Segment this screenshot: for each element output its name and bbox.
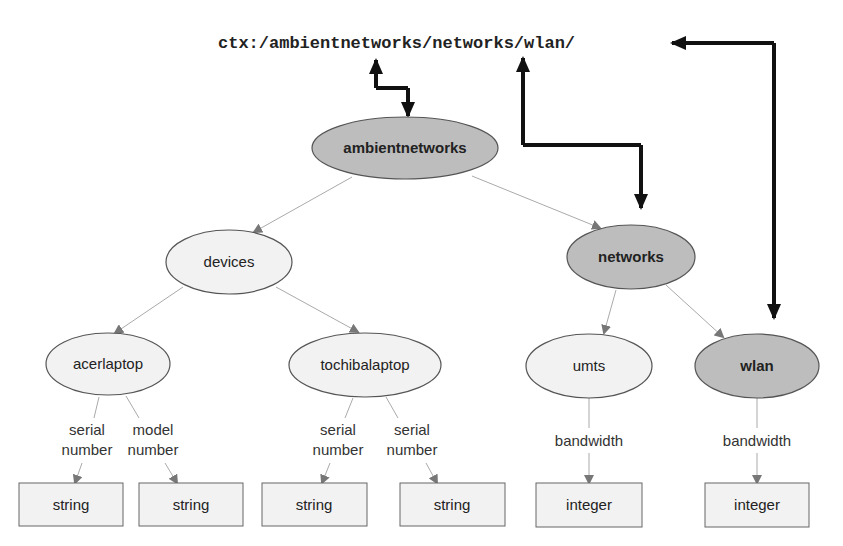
edge-label-tochiba-serial2: serial number: [387, 421, 438, 458]
edge-label-line: number: [313, 441, 364, 458]
edge-label-line: number: [128, 441, 179, 458]
edge-devices-acerlaptop: [115, 287, 183, 333]
edge-label-tochiba-serial1: serial number: [313, 421, 364, 458]
edge-acer-model-bottom: [165, 463, 177, 483]
type-box-wlan-bandwidth[interactable]: integer: [705, 483, 809, 527]
node-networks[interactable]: networks: [567, 225, 695, 289]
type-box-acer-model[interactable]: string: [139, 483, 243, 526]
edge-devices-tochibalaptop: [276, 287, 358, 332]
type-label: string: [173, 496, 210, 513]
edge-networks-wlan: [666, 285, 723, 337]
edge-ambientnetworks-networks: [472, 176, 600, 228]
edge-label-line: number: [62, 441, 113, 458]
context-arrow-wlan: [672, 43, 774, 318]
edge-tochiba-serial1-bottom: [322, 463, 330, 483]
edge-acer-model-top: [126, 396, 139, 418]
node-umts[interactable]: umts: [526, 334, 652, 398]
node-tochibalaptop[interactable]: tochibalaptop: [289, 333, 441, 397]
edge-ambientnetworks-devices: [254, 177, 352, 232]
edge-label-line: serial: [320, 421, 356, 438]
node-label: wlan: [739, 357, 773, 374]
context-path: ctx:/ambientnetworks/networks/wlan/: [218, 34, 575, 53]
type-box-acer-serial[interactable]: string: [19, 483, 123, 526]
edge-tochiba-serial1-top: [345, 398, 353, 418]
node-label: networks: [598, 248, 664, 265]
edge-label-line: model: [133, 421, 174, 438]
context-arrow-ambientnetworks: [376, 60, 408, 116]
node-label: umts: [573, 357, 606, 374]
edge-label-umts-bandwidth: bandwidth: [555, 432, 623, 449]
edge-label-line: serial: [69, 421, 105, 438]
type-label: string: [296, 496, 333, 513]
type-label: string: [53, 496, 90, 513]
edge-acer-serial-top: [94, 397, 99, 418]
edge-label-line: number: [387, 441, 438, 458]
node-acerlaptop[interactable]: acerlaptop: [46, 333, 170, 395]
edge-label-wlan-bandwidth: bandwidth: [723, 432, 791, 449]
type-label: integer: [734, 496, 780, 513]
node-devices[interactable]: devices: [166, 230, 292, 294]
node-wlan[interactable]: wlan: [695, 334, 819, 398]
node-label: tochibalaptop: [320, 356, 409, 373]
edge-tochiba-serial2-bottom: [426, 463, 437, 483]
context-tree-diagram: ctx:/ambientnetworks/networks/wlan/: [0, 0, 843, 546]
edge-networks-umts: [604, 290, 616, 333]
node-label: ambientnetworks: [343, 139, 466, 156]
type-label: integer: [566, 496, 612, 513]
edge-label-acer-serial: serial number: [62, 421, 113, 458]
node-ambientnetworks[interactable]: ambientnetworks: [312, 117, 498, 179]
type-box-umts-bandwidth[interactable]: integer: [536, 483, 642, 527]
node-label: acerlaptop: [73, 355, 143, 372]
node-label: devices: [204, 253, 255, 270]
edge-acer-serial-bottom: [75, 463, 82, 483]
type-label: string: [434, 496, 471, 513]
edge-tochiba-serial2-top: [386, 397, 398, 418]
context-arrow-networks: [523, 58, 641, 208]
edge-label-line: serial: [394, 421, 430, 438]
type-box-tochiba-serial2[interactable]: string: [400, 483, 505, 526]
type-box-tochiba-serial1[interactable]: string: [262, 483, 367, 526]
edge-label-acer-model: model number: [128, 421, 179, 458]
